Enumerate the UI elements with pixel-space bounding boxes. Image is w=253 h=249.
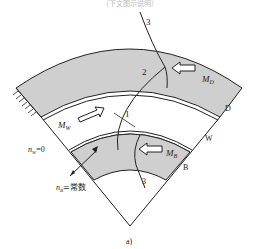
label-w: W <box>205 134 213 143</box>
label-d: D <box>225 104 231 113</box>
label-b: B <box>183 163 188 172</box>
svg-text:nW=0: nW=0 <box>28 145 45 155</box>
figure-label: a) <box>126 237 133 246</box>
svg-text:MW: MW <box>57 120 72 131</box>
label-3-bottom: 3 <box>142 177 146 186</box>
label-2: 2 <box>142 67 147 77</box>
top-caption: （下文图示说明） <box>102 0 158 8</box>
svg-text:nB=常数: nB=常数 <box>56 182 86 193</box>
label-3-top: 3 <box>146 17 151 27</box>
label-1: 1 <box>125 109 130 119</box>
torque-converter-diagram: （下文图示说明） 3 2 1 3 MD MW <box>0 0 253 249</box>
mw-arrow-icon <box>78 107 104 122</box>
